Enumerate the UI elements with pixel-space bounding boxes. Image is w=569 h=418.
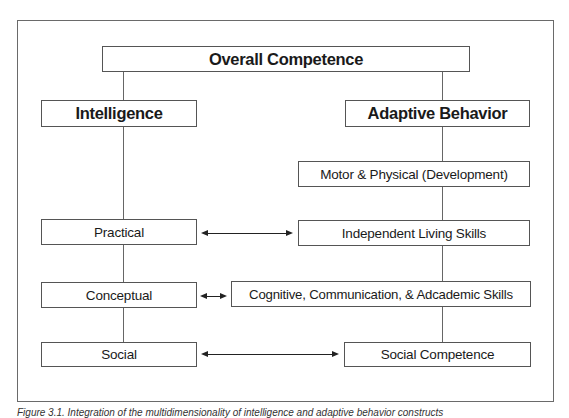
node-practical: Practical [41, 219, 197, 245]
node-adaptive-behavior: Adaptive Behavior [345, 100, 530, 127]
node-label: Cognitive, Communication, & Adcademic Sk… [249, 287, 513, 302]
arrow-shaft [204, 233, 290, 234]
node-label: Social [101, 347, 137, 362]
node-label: Intelligence [75, 104, 162, 123]
node-label: Social Competence [381, 347, 495, 362]
arrowhead-right-icon [220, 293, 227, 299]
arrow-social-social-competence [201, 350, 339, 358]
node-social: Social [41, 342, 197, 367]
node-overall-competence: Overall Competence [102, 46, 470, 72]
node-label: Overall Competence [209, 50, 363, 69]
node-label: Adaptive Behavior [368, 104, 508, 123]
arrowhead-left-icon [200, 293, 207, 299]
node-independent-living: Independent Living Skills [298, 220, 530, 246]
arrow-shaft [204, 354, 336, 355]
arrow-practical-independent-living [201, 229, 293, 237]
node-conceptual: Conceptual [41, 282, 197, 308]
figure-caption: Figure 3.1. Integration of the multidime… [17, 407, 443, 418]
node-label: Conceptual [86, 288, 152, 303]
node-intelligence: Intelligence [41, 100, 197, 127]
arrow-conceptual-cognitive [200, 292, 227, 300]
node-label: Motor & Physical (Development) [320, 167, 508, 182]
arrowhead-right-icon [332, 351, 339, 357]
node-motor-physical: Motor & Physical (Development) [298, 161, 530, 187]
arrowhead-left-icon [201, 230, 208, 236]
connector-root-to-adaptive [442, 71, 443, 101]
node-social-competence: Social Competence [344, 342, 531, 367]
node-label: Practical [94, 225, 144, 240]
connector-root-to-intelligence [123, 71, 124, 101]
node-label: Independent Living Skills [342, 226, 486, 241]
arrowhead-right-icon [286, 230, 293, 236]
arrowhead-left-icon [201, 351, 208, 357]
node-cognitive-communication-academic: Cognitive, Communication, & Adcademic Sk… [231, 281, 531, 307]
